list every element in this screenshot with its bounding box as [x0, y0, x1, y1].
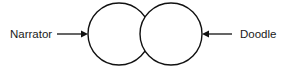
narrator-callout-arrowhead-icon — [81, 31, 88, 38]
venn-diagram-container: Narrator Doodle — [0, 0, 289, 71]
narrator-label: Narrator — [10, 28, 52, 40]
venn-diagram-canvas: Narrator Doodle — [0, 0, 289, 71]
doodle-label: Doodle — [240, 28, 276, 40]
doodle-callout-arrowhead-icon — [202, 31, 209, 38]
venn-circle-doodle — [140, 3, 202, 65]
